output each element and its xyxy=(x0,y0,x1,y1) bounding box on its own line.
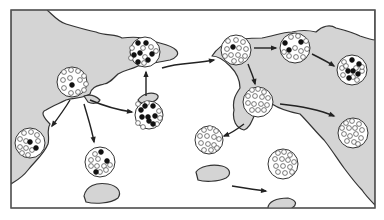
individual-filled-dot xyxy=(151,104,156,109)
population-south-island xyxy=(85,147,115,177)
individual-open-dot xyxy=(250,108,255,113)
individual-open-dot xyxy=(78,78,83,83)
individual-open-dot xyxy=(266,96,271,101)
individual-open-dot xyxy=(29,130,34,135)
individual-filled-dot xyxy=(283,41,288,46)
individual-filled-dot xyxy=(151,122,156,127)
individual-open-dot xyxy=(280,157,285,162)
individual-filled-dot xyxy=(132,53,137,58)
individual-open-dot xyxy=(96,157,101,162)
individual-open-dot xyxy=(357,122,362,127)
population-southwest-island xyxy=(195,126,223,154)
individual-filled-dot xyxy=(94,170,99,175)
individual-open-dot xyxy=(273,157,278,162)
individual-open-dot xyxy=(215,146,220,151)
individual-open-dot xyxy=(288,153,293,158)
individual-open-dot xyxy=(293,46,298,51)
individual-filled-dot xyxy=(347,76,352,81)
individual-open-dot xyxy=(68,76,73,81)
individual-open-dot xyxy=(61,78,66,83)
individual-open-dot xyxy=(256,108,261,113)
population-southeast-coast xyxy=(338,118,368,148)
individual-open-dot xyxy=(217,137,222,142)
individual-open-dot xyxy=(344,121,349,126)
individual-open-dot xyxy=(214,129,219,134)
individual-open-dot xyxy=(104,168,109,173)
individual-open-dot xyxy=(93,152,98,157)
individual-filled-dot xyxy=(140,115,145,120)
individual-filled-dot xyxy=(70,83,75,88)
individual-open-dot xyxy=(301,55,306,60)
individual-open-dot xyxy=(256,87,261,92)
individual-open-dot xyxy=(260,95,265,100)
individual-filled-dot xyxy=(350,58,355,63)
individual-open-dot xyxy=(259,102,264,107)
individual-open-dot xyxy=(344,64,349,69)
individual-open-dot xyxy=(76,90,81,95)
individual-filled-dot xyxy=(136,60,141,65)
individual-open-dot xyxy=(232,59,237,64)
individual-open-dot xyxy=(283,171,288,176)
individual-open-dot xyxy=(262,90,267,95)
individual-open-dot xyxy=(282,150,287,155)
individual-open-dot xyxy=(202,128,207,133)
individual-open-dot xyxy=(290,170,295,175)
individual-open-dot xyxy=(341,73,346,78)
individual-open-dot xyxy=(35,133,40,138)
individual-open-dot xyxy=(287,54,292,59)
individual-open-dot xyxy=(347,126,352,131)
individual-open-dot xyxy=(136,102,141,107)
individual-open-dot xyxy=(244,47,249,52)
individual-open-dot xyxy=(239,58,244,63)
individual-filled-dot xyxy=(356,72,361,77)
individual-open-dot xyxy=(340,126,345,131)
individual-open-dot xyxy=(209,148,214,153)
individual-filled-dot xyxy=(150,52,155,57)
individual-open-dot xyxy=(282,50,287,55)
individual-open-dot xyxy=(36,139,41,144)
individual-open-dot xyxy=(274,164,279,169)
individual-open-dot xyxy=(354,132,359,137)
individual-open-dot xyxy=(348,134,353,139)
individual-open-dot xyxy=(26,153,31,158)
individual-open-dot xyxy=(360,128,365,133)
individual-open-dot xyxy=(20,151,25,156)
individual-open-dot xyxy=(234,38,239,43)
individual-open-dot xyxy=(202,148,207,153)
individual-open-dot xyxy=(294,55,299,60)
individual-filled-dot xyxy=(28,140,33,145)
individual-open-dot xyxy=(69,91,74,96)
individual-filled-dot xyxy=(351,69,356,74)
individual-open-dot xyxy=(237,46,242,51)
individual-open-dot xyxy=(276,170,281,175)
individual-filled-dot xyxy=(299,40,304,45)
individual-filled-dot xyxy=(99,150,104,155)
individual-open-dot xyxy=(82,88,87,93)
individual-filled-dot xyxy=(153,114,158,119)
individual-open-dot xyxy=(18,145,23,150)
dispersal-diagram xyxy=(0,0,384,220)
population-southeast-island xyxy=(268,149,298,179)
individual-open-dot xyxy=(62,86,67,91)
individual-filled-dot xyxy=(136,41,141,46)
landmass-island-southwest xyxy=(196,165,229,181)
individual-open-dot xyxy=(223,54,228,59)
individual-open-dot xyxy=(76,69,81,74)
individual-open-dot xyxy=(236,53,241,58)
individual-open-dot xyxy=(208,126,213,131)
individual-open-dot xyxy=(141,46,146,51)
individual-open-dot xyxy=(265,103,270,108)
individual-open-dot xyxy=(253,94,258,99)
individual-open-dot xyxy=(243,54,248,59)
individual-open-dot xyxy=(89,158,94,163)
individual-open-dot xyxy=(225,47,230,52)
individual-open-dot xyxy=(206,142,211,147)
individual-open-dot xyxy=(355,78,360,83)
individual-open-dot xyxy=(241,40,246,45)
individual-filled-dot xyxy=(146,58,151,63)
individual-filled-dot xyxy=(143,104,148,109)
individual-open-dot xyxy=(350,119,355,124)
individual-open-dot xyxy=(199,141,204,146)
individual-open-dot xyxy=(130,46,135,51)
individual-open-dot xyxy=(288,165,293,170)
